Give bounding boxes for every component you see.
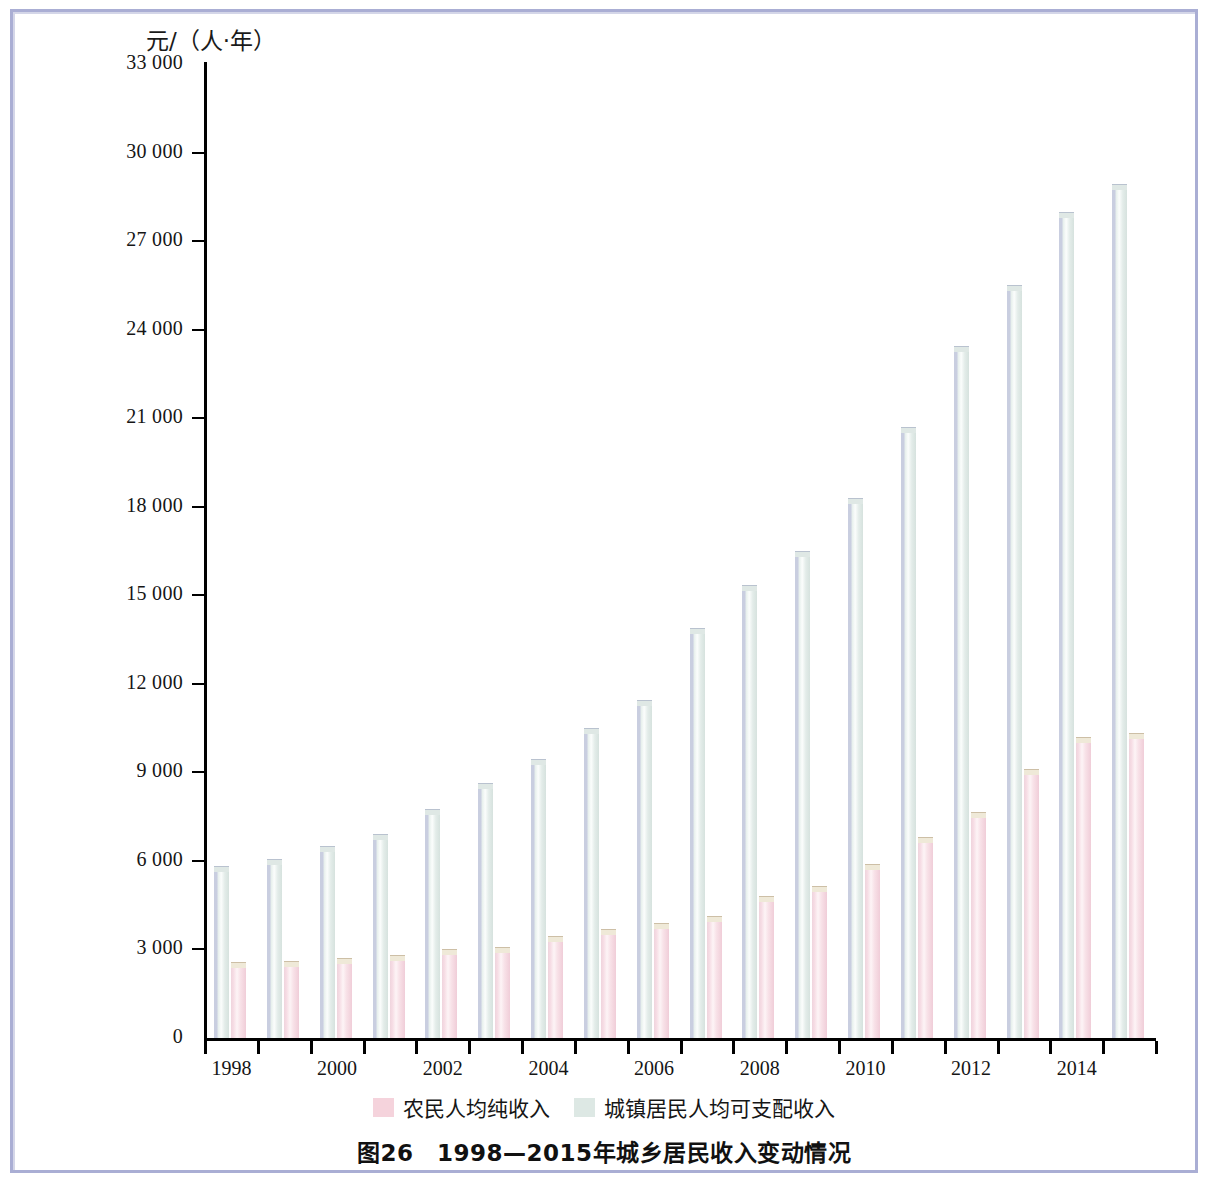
- bar-top-cap: [601, 929, 616, 935]
- bar-rural-2006: [654, 923, 669, 1038]
- x-axis-tick-label: 2006: [634, 1057, 674, 1080]
- y-axis-tick-mark: [192, 771, 205, 773]
- y-axis-tick-label: 12 000: [126, 671, 183, 694]
- x-axis-tick-mark: [680, 1041, 683, 1054]
- legend-item-rural[interactable]: 农民人均纯收入: [373, 1092, 550, 1122]
- x-axis-tick-mark: [574, 1041, 577, 1054]
- bar-top-cap: [478, 783, 493, 789]
- bar-top-cap: [320, 846, 335, 852]
- bar-shaft: [742, 589, 757, 1038]
- bar-shaft: [812, 890, 827, 1038]
- y-axis-tick-label: 0: [173, 1025, 183, 1048]
- bar-rural-2014: [1076, 737, 1091, 1038]
- bar-urban-1999: [267, 859, 282, 1038]
- x-axis-tick-label: 1998: [211, 1057, 251, 1080]
- y-axis-tick-mark: [192, 860, 205, 862]
- bar-top-cap: [531, 759, 546, 765]
- bar-top-cap: [759, 896, 774, 902]
- bar-rural-2003: [495, 947, 510, 1038]
- x-axis-tick-mark: [310, 1041, 313, 1054]
- bar-shaft: [654, 927, 669, 1038]
- y-axis-tick-label: 3 000: [137, 936, 184, 959]
- bar-top-cap: [1007, 285, 1022, 291]
- bar-shaft: [284, 965, 299, 1038]
- bar-rural-2013: [1024, 769, 1039, 1038]
- bar-rural-2005: [601, 929, 616, 1038]
- bar-urban-2003: [478, 783, 493, 1038]
- bar-shaft: [442, 953, 457, 1038]
- bar-top-cap: [1059, 212, 1074, 218]
- legend-item-urban[interactable]: 城镇居民人均可支配收入: [574, 1092, 835, 1122]
- x-axis-tick-label: 2010: [845, 1057, 885, 1080]
- bar-urban-2005: [584, 728, 599, 1038]
- legend-label-urban: 城镇居民人均可支配收入: [604, 1092, 835, 1122]
- bar-top-cap: [495, 947, 510, 953]
- bar-top-cap: [337, 958, 352, 964]
- bar-rural-2010: [865, 864, 880, 1038]
- bar-top-cap: [425, 809, 440, 815]
- bar-shaft: [601, 933, 616, 1038]
- figure-caption: 图26 1998—2015年城乡居民收入变动情况: [0, 1134, 1208, 1168]
- bar-rural-2015: [1129, 733, 1144, 1038]
- bar-top-cap: [971, 812, 986, 818]
- x-axis-tick-mark: [204, 1041, 207, 1054]
- bar-top-cap: [812, 886, 827, 892]
- bar-shaft: [1024, 773, 1039, 1038]
- bar-rural-2011: [918, 837, 933, 1038]
- bar-top-cap: [637, 700, 652, 706]
- bar-top-cap: [584, 728, 599, 734]
- y-axis-tick-label: 33 000: [126, 51, 183, 74]
- bar-urban-2009: [795, 551, 810, 1038]
- x-axis-tick-mark: [257, 1041, 260, 1054]
- x-axis-tick-mark: [838, 1041, 841, 1054]
- bar-shaft: [584, 732, 599, 1038]
- bar-top-cap: [795, 551, 810, 557]
- x-axis-tick-label: 2002: [423, 1057, 463, 1080]
- bar-shaft: [865, 868, 880, 1038]
- x-axis-tick-mark: [468, 1041, 471, 1054]
- y-axis-tick-label: 30 000: [126, 140, 183, 163]
- bar-rural-2001: [390, 955, 405, 1038]
- bar-urban-2008: [742, 585, 757, 1038]
- bar-top-cap: [267, 859, 282, 865]
- bar-top-cap: [690, 628, 705, 634]
- y-axis-tick-label: 24 000: [126, 317, 183, 340]
- x-axis-tick-mark: [891, 1041, 894, 1054]
- bar-urban-2002: [425, 809, 440, 1038]
- x-axis-tick-mark: [1102, 1041, 1105, 1054]
- bar-top-cap: [284, 961, 299, 967]
- x-axis-tick-label: 2014: [1057, 1057, 1097, 1080]
- bar-urban-2014: [1059, 212, 1074, 1038]
- bar-urban-2000: [320, 846, 335, 1038]
- bar-shaft: [337, 962, 352, 1038]
- legend-swatch-rural: [373, 1098, 394, 1117]
- x-axis-tick-mark: [785, 1041, 788, 1054]
- bar-shaft: [531, 763, 546, 1038]
- x-axis-tick-label: 2000: [317, 1057, 357, 1080]
- bar-top-cap: [1076, 737, 1091, 743]
- bar-urban-2010: [848, 498, 863, 1038]
- bar-urban-2013: [1007, 285, 1022, 1038]
- y-axis-tick-mark: [192, 683, 205, 685]
- bar-shaft: [373, 838, 388, 1038]
- x-axis-tick-mark: [944, 1041, 947, 1054]
- bar-top-cap: [442, 949, 457, 955]
- bar-top-cap: [1024, 769, 1039, 775]
- bar-top-cap: [231, 962, 246, 968]
- bar-urban-1998: [214, 866, 229, 1038]
- bar-shaft: [954, 350, 969, 1038]
- bar-shaft: [267, 863, 282, 1038]
- bar-shaft: [918, 841, 933, 1038]
- y-axis-tick-mark: [192, 594, 205, 596]
- bar-shaft: [214, 870, 229, 1038]
- x-axis-tick-mark: [363, 1041, 366, 1054]
- bar-shaft: [495, 951, 510, 1038]
- bar-shaft: [548, 940, 563, 1038]
- y-axis-tick-mark: [192, 506, 205, 508]
- x-axis-tick-mark: [732, 1041, 735, 1054]
- bar-shaft: [478, 787, 493, 1038]
- y-axis-tick-mark: [192, 152, 205, 154]
- y-axis-tick-label: 18 000: [126, 494, 183, 517]
- bar-top-cap: [1112, 184, 1127, 190]
- bar-rural-2002: [442, 949, 457, 1038]
